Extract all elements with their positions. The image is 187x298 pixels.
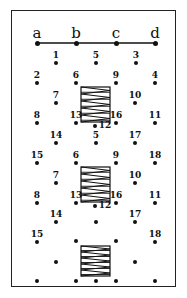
point-dot bbox=[114, 239, 118, 243]
point-label: 1 bbox=[53, 51, 59, 60]
point-label: 6 bbox=[73, 71, 79, 80]
point-dot bbox=[153, 161, 157, 165]
point-label: 11 bbox=[149, 191, 162, 200]
point-label: 9 bbox=[113, 71, 119, 80]
point-dot bbox=[35, 279, 39, 283]
coil-icon bbox=[81, 167, 110, 202]
point-label: 13 bbox=[70, 191, 83, 200]
point-dot bbox=[54, 181, 58, 185]
point-label: 10 bbox=[129, 91, 142, 100]
point-dot bbox=[93, 204, 97, 208]
point-dot bbox=[133, 181, 137, 185]
point-dot bbox=[153, 201, 157, 205]
point-label: 2 bbox=[34, 71, 40, 80]
point-label: 11 bbox=[149, 111, 162, 120]
point-label: 12 bbox=[99, 201, 112, 210]
point-label: 9 bbox=[113, 151, 119, 160]
point-label: 5 bbox=[93, 131, 99, 140]
point-label: 16 bbox=[110, 191, 123, 200]
point-label: 15 bbox=[31, 151, 44, 160]
point-dot bbox=[133, 101, 137, 105]
point-dot bbox=[35, 201, 39, 205]
point-label: 15 bbox=[31, 230, 44, 239]
point-dot bbox=[35, 81, 39, 85]
point-dot bbox=[93, 124, 97, 128]
point-dot bbox=[94, 141, 98, 145]
point-dot bbox=[114, 279, 118, 283]
point-dot bbox=[134, 61, 138, 65]
point-dot bbox=[74, 201, 78, 205]
point-dot bbox=[94, 279, 98, 283]
point-label: 12 bbox=[99, 121, 112, 130]
point-dot bbox=[153, 121, 157, 125]
point-label: 6 bbox=[73, 151, 79, 160]
point-label: 7 bbox=[53, 171, 59, 180]
point-dot bbox=[74, 121, 78, 125]
point-label: 16 bbox=[110, 111, 123, 120]
diagram-lines bbox=[0, 0, 187, 298]
terminal-label-d: d bbox=[150, 26, 160, 41]
point-label: 7 bbox=[53, 91, 59, 100]
point-dot bbox=[74, 279, 78, 283]
point-dot bbox=[114, 121, 118, 125]
point-label: 10 bbox=[129, 171, 142, 180]
coil-icon bbox=[81, 246, 110, 276]
point-dot bbox=[114, 81, 118, 85]
point-dot bbox=[94, 220, 98, 224]
point-label: 14 bbox=[50, 131, 63, 140]
point-dot bbox=[54, 260, 58, 264]
point-dot bbox=[133, 141, 137, 145]
point-label: 17 bbox=[129, 131, 142, 140]
point-label: 14 bbox=[50, 210, 63, 219]
point-dot bbox=[54, 61, 58, 65]
point-dot bbox=[133, 260, 137, 264]
point-label: 18 bbox=[149, 230, 162, 239]
coil-icon bbox=[81, 87, 110, 122]
point-dot bbox=[54, 220, 58, 224]
point-label: 5 bbox=[93, 51, 99, 60]
point-label: 13 bbox=[70, 111, 83, 120]
point-dot bbox=[153, 279, 157, 283]
point-label: 17 bbox=[129, 210, 142, 219]
point-dot bbox=[133, 220, 137, 224]
point-dot bbox=[35, 240, 39, 244]
point-dot bbox=[74, 161, 78, 165]
point-label: 8 bbox=[34, 191, 40, 200]
point-dot bbox=[35, 121, 39, 125]
point-dot bbox=[114, 201, 118, 205]
point-dot bbox=[153, 240, 157, 244]
terminal-label-c: c bbox=[112, 26, 120, 41]
point-dot bbox=[35, 161, 39, 165]
point-dot bbox=[74, 81, 78, 85]
terminal-label-b: b bbox=[71, 26, 81, 41]
point-label: 4 bbox=[152, 71, 158, 80]
point-dot bbox=[74, 239, 78, 243]
point-dot bbox=[114, 161, 118, 165]
point-label: 8 bbox=[34, 111, 40, 120]
point-label: 3 bbox=[133, 51, 139, 60]
point-dot bbox=[54, 141, 58, 145]
point-dot bbox=[94, 61, 98, 65]
terminal-label-a: a bbox=[33, 26, 42, 41]
point-dot bbox=[153, 81, 157, 85]
point-dot bbox=[54, 101, 58, 105]
point-label: 18 bbox=[149, 151, 162, 160]
